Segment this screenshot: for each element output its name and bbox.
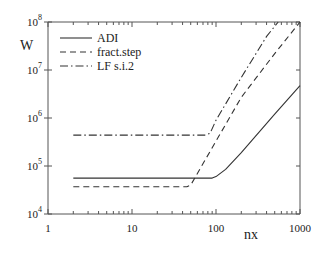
axis-ticks bbox=[44, 22, 300, 214]
y-axis-label: W bbox=[20, 38, 34, 53]
y-tick-exponent: 5 bbox=[38, 157, 42, 166]
y-tick-label: 10 bbox=[27, 208, 39, 220]
plot-frame bbox=[48, 22, 300, 214]
y-tick-exponent: 8 bbox=[38, 13, 42, 22]
legend-label: ADI bbox=[97, 31, 118, 45]
x-tick-label: 10 bbox=[127, 222, 139, 234]
y-tick-exponent: 7 bbox=[38, 61, 42, 70]
series-adi bbox=[73, 86, 300, 178]
tick-labels: 1101001000104105106107108 bbox=[27, 13, 312, 234]
x-axis-label: nx bbox=[244, 227, 258, 242]
legend-label: fract.step bbox=[97, 45, 141, 59]
y-tick-label: 10 bbox=[27, 64, 39, 76]
y-tick-label: 10 bbox=[27, 16, 39, 28]
y-tick-label: 10 bbox=[27, 112, 39, 124]
legend: ADIfract.stepLF s.i.2 bbox=[60, 31, 141, 73]
y-tick-exponent: 6 bbox=[38, 109, 42, 118]
x-tick-label: 100 bbox=[208, 222, 225, 234]
line-chart: 1101001000104105106107108 ADIfract.stepL… bbox=[0, 0, 322, 254]
legend-label: LF s.i.2 bbox=[97, 59, 134, 73]
x-tick-label: 1 bbox=[45, 222, 51, 234]
x-tick-label: 1000 bbox=[289, 222, 312, 234]
y-tick-label: 10 bbox=[27, 160, 39, 172]
y-tick-exponent: 4 bbox=[38, 205, 42, 214]
